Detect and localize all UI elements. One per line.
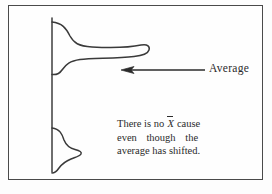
upper-distribution-curve <box>52 22 149 75</box>
x-bar-letter: X <box>167 118 173 129</box>
plot-drawing <box>0 0 272 194</box>
scanned-figure: Average There is no X cause even though … <box>0 0 272 194</box>
caption-line-3: average has shifted. <box>117 144 213 158</box>
average-arrow <box>121 67 205 74</box>
lower-distribution-curve <box>52 128 81 173</box>
caption-line-2: even though the <box>117 131 213 145</box>
caption-line-1-before: There is no <box>117 118 167 129</box>
caption-line-1: There is no X cause <box>117 117 213 131</box>
caption-text-block: There is no X cause even though the aver… <box>117 117 213 158</box>
average-label: Average <box>209 62 249 74</box>
caption-line-1-after: cause <box>174 118 200 129</box>
x-bar-symbol: X <box>167 117 174 131</box>
overbar-icon <box>167 116 173 117</box>
